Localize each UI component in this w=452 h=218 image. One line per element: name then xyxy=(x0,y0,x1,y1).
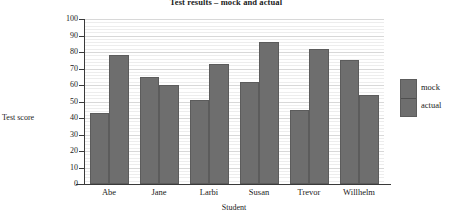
legend-swatch-box xyxy=(400,79,417,117)
x-tick-label-susan: Susan xyxy=(234,187,284,197)
bars-layer xyxy=(84,19,384,184)
x-tick-label-willhelm: Willhelm xyxy=(334,187,384,197)
y-tick-label: 50 xyxy=(52,98,78,106)
x-axis-title: Student xyxy=(84,203,384,212)
y-tick-label: 0 xyxy=(52,180,78,188)
bar-larbi-mock xyxy=(190,100,210,184)
legend-label-actual: actual xyxy=(421,101,441,110)
bar-trevor-mock xyxy=(290,110,310,184)
bar-jane-mock xyxy=(140,77,160,184)
y-tick-label: 70 xyxy=(52,65,78,73)
y-tick-label: 40 xyxy=(52,114,78,122)
bar-jane-actual xyxy=(159,85,179,184)
y-tick-label: 80 xyxy=(52,48,78,56)
y-tick-label: 60 xyxy=(52,81,78,89)
bar-susan-actual xyxy=(259,42,279,184)
y-tick-label: 90 xyxy=(52,32,78,40)
bar-willhelm-actual xyxy=(359,95,379,184)
y-axis-title: Test score xyxy=(2,113,34,122)
bar-abe-mock xyxy=(90,113,110,184)
bar-abe-actual xyxy=(109,55,129,184)
bar-larbi-actual xyxy=(209,64,229,184)
x-axis-line xyxy=(76,184,391,185)
y-tick-label: 10 xyxy=(52,164,78,172)
x-tick-label-trevor: Trevor xyxy=(284,187,334,197)
y-tick-label: 20 xyxy=(52,147,78,155)
bar-trevor-actual xyxy=(309,49,329,184)
bar-susan-mock xyxy=(240,82,260,184)
y-tick-label: 100 xyxy=(52,15,78,23)
y-tick-label: 30 xyxy=(52,131,78,139)
legend-swatch-divider xyxy=(401,98,416,99)
x-tick-label-abe: Abe xyxy=(84,187,134,197)
bar-chart: Test results – mock and actual 010203040… xyxy=(0,0,452,218)
x-tick-label-larbi: Larbi xyxy=(184,187,234,197)
legend-label-mock: mock xyxy=(421,83,440,92)
bar-willhelm-mock xyxy=(340,60,360,184)
y-axis-tick-labels: 0102030405060708090100 xyxy=(52,0,78,218)
x-tick-label-jane: Jane xyxy=(134,187,184,197)
y-tick-mark xyxy=(79,184,84,185)
